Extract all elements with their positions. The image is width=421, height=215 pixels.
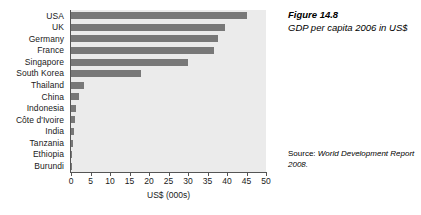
bar-row (71, 126, 266, 138)
category-axis-labels: USAUKGermanyFranceSingaporeSouth KoreaTh… (0, 10, 68, 172)
x-tick-label: 40 (222, 177, 231, 186)
bar (71, 140, 73, 147)
bar (71, 70, 141, 77)
bar-row (71, 137, 266, 149)
bar (71, 163, 72, 170)
bar-row (71, 56, 266, 68)
category-label: Burundi (0, 161, 68, 173)
bar (71, 24, 225, 31)
bar (71, 116, 75, 123)
x-tick-label: 35 (203, 177, 212, 186)
x-axis-title: US$ (000s) (71, 190, 266, 200)
bar-row (71, 114, 266, 126)
category-label: Ethiopia (0, 149, 68, 161)
bar-row (71, 103, 266, 115)
bar-row (71, 45, 266, 57)
x-tick-label: 10 (105, 177, 114, 186)
x-tick-label: 15 (125, 177, 134, 186)
bar-chart: USAUKGermanyFranceSingaporeSouth KoreaTh… (0, 0, 272, 215)
category-label: India (0, 126, 68, 138)
bar (71, 105, 76, 112)
category-label: Indonesia (0, 103, 68, 115)
source-lead: Source: (288, 149, 318, 158)
category-label: Thailand (0, 79, 68, 91)
x-tick-label: 0 (69, 177, 74, 186)
bar-row (71, 10, 266, 22)
category-label: Côte d'Ivoire (0, 114, 68, 126)
category-label: Germany (0, 33, 68, 45)
bar (71, 93, 79, 100)
figure-source: Source: World Development Report 2008. (288, 148, 421, 170)
bar (71, 128, 74, 135)
category-label: France (0, 45, 68, 57)
bar-row (71, 91, 266, 103)
bar (71, 151, 72, 158)
x-tick-label: 5 (88, 177, 93, 186)
figure-container: USAUKGermanyFranceSingaporeSouth KoreaTh… (0, 0, 421, 215)
figure-sidebar: Figure 14.8 GDP per capita 2006 in US$ S… (288, 0, 421, 215)
bar-row (71, 161, 266, 173)
x-tick-label: 30 (183, 177, 192, 186)
bar (71, 47, 214, 54)
x-tick-label: 20 (144, 177, 153, 186)
bar-series (71, 10, 266, 172)
category-label: China (0, 91, 68, 103)
x-tick-label: 45 (242, 177, 251, 186)
bar (71, 35, 218, 42)
plot-area (71, 10, 266, 172)
bar-row (71, 33, 266, 45)
figure-number: Figure 14.8 (288, 9, 338, 20)
category-label: USA (0, 10, 68, 22)
category-label: South Korea (0, 68, 68, 80)
x-tick-label: 50 (261, 177, 270, 186)
bar (71, 12, 247, 19)
bar (71, 59, 188, 66)
bar-row (71, 22, 266, 34)
bar-row (71, 79, 266, 91)
bar-row (71, 149, 266, 161)
category-label: Tanzania (0, 137, 68, 149)
category-label: Singapore (0, 56, 68, 68)
bar (71, 82, 84, 89)
bar-row (71, 68, 266, 80)
x-tick-label: 25 (164, 177, 173, 186)
y-axis-line (70, 10, 71, 173)
figure-caption: GDP per capita 2006 in US$ (288, 22, 418, 35)
category-label: UK (0, 22, 68, 34)
